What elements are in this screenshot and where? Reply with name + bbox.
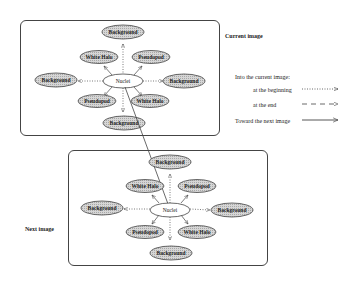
svg-text:Pseudopod: Pseudopod	[132, 229, 158, 235]
svg-text:Background: Background	[156, 159, 185, 165]
node-pseudopod-bl-next: Pseudopod	[126, 226, 164, 239]
svg-text:Background: Background	[88, 205, 117, 211]
svg-text:Pseudopod: Pseudopod	[184, 183, 210, 189]
node-white-halo-tl: White Halo	[80, 51, 118, 64]
node-background-right: Background	[163, 74, 205, 88]
svg-text:Background: Background	[42, 77, 71, 83]
svg-text:Nuclei: Nuclei	[116, 78, 131, 84]
node-background-top: Background	[102, 25, 144, 39]
node-background-left: Background	[35, 73, 77, 87]
current-graph: Background White Halo Pseudopod Backgrou…	[35, 25, 205, 130]
node-white-halo-br-next: White Halo	[178, 226, 216, 239]
svg-text:Nuclei: Nuclei	[163, 207, 178, 213]
svg-text:Background: Background	[109, 29, 138, 35]
node-white-halo-br: White Halo	[131, 95, 169, 108]
diagram-graphics: Background White Halo Pseudopod Backgrou…	[0, 0, 361, 281]
legend-lines	[302, 89, 338, 120]
node-pseudopod-tr-next: Pseudopod	[178, 180, 216, 193]
svg-text:Background: Background	[218, 207, 247, 213]
node-background-bottom-next: Background	[150, 246, 192, 260]
node-background-right-next: Background	[211, 203, 253, 217]
svg-text:Pseudopod: Pseudopod	[84, 98, 110, 104]
svg-text:White Halo: White Halo	[85, 54, 112, 60]
next-graph: Background White Halo Pseudopod Backgrou…	[81, 155, 253, 260]
node-nuclei-next: Nuclei	[150, 203, 190, 217]
node-background-left-next: Background	[81, 201, 123, 215]
svg-text:Pseudopod: Pseudopod	[138, 54, 164, 60]
node-nuclei-current: Nuclei	[103, 74, 143, 88]
svg-text:White Halo: White Halo	[136, 98, 163, 104]
node-background-top-next: Background	[149, 155, 191, 169]
svg-text:Background: Background	[110, 120, 139, 126]
node-pseudopod-bl: Pseudopod	[78, 95, 116, 108]
node-white-halo-tl-next: White Halo	[126, 180, 164, 193]
node-background-bottom: Background	[103, 116, 145, 130]
node-pseudopod-tr: Pseudopod	[132, 51, 170, 64]
svg-text:White Halo: White Halo	[183, 229, 210, 235]
svg-text:Background: Background	[157, 250, 186, 256]
svg-text:White Halo: White Halo	[131, 183, 158, 189]
svg-text:Background: Background	[170, 78, 199, 84]
